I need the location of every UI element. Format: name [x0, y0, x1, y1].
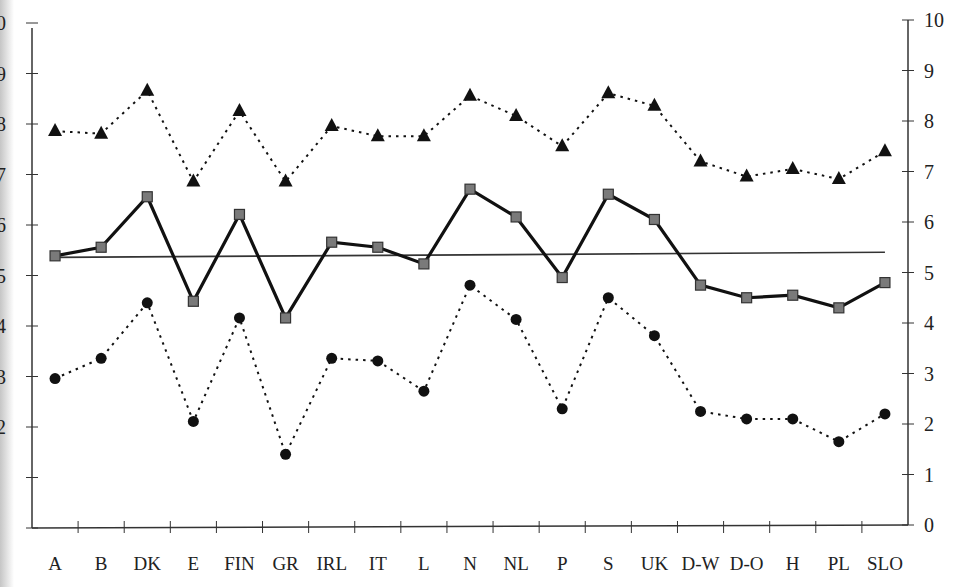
circle-marker — [649, 330, 660, 341]
square-marker — [373, 242, 383, 252]
square-marker — [142, 192, 152, 202]
square-marker — [834, 303, 844, 313]
x-category-label: DK — [134, 553, 162, 574]
circle-marker — [418, 386, 429, 397]
circle-marker — [280, 449, 291, 460]
circle-marker — [188, 416, 199, 427]
left-y-tick-label: 5 — [0, 265, 6, 287]
circle-marker — [50, 373, 61, 384]
triangle-marker — [94, 126, 108, 139]
triangle-marker — [463, 88, 477, 101]
square-marker — [742, 293, 752, 303]
line-chart: 012345678910098765432ABDKEFINGRIRLITLNNL… — [0, 0, 954, 587]
triangle-marker — [832, 171, 846, 184]
x-category-label: IT — [369, 553, 387, 574]
x-category-label: A — [48, 553, 62, 574]
circle-marker — [787, 413, 798, 424]
circle-marker — [879, 408, 890, 419]
left-y-tick-label: 7 — [0, 164, 6, 186]
circle-marker — [557, 403, 568, 414]
series-circle — [50, 280, 891, 460]
square-marker — [281, 313, 291, 323]
left-y-tick-label: 4 — [0, 315, 6, 337]
x-category-label: H — [786, 553, 800, 574]
square-marker — [603, 189, 613, 199]
square-marker — [96, 242, 106, 252]
x-category-label: NL — [503, 553, 528, 574]
square-marker — [557, 273, 567, 283]
left-y-tick-label: 6 — [0, 214, 6, 236]
square-marker — [419, 259, 429, 269]
triangle-marker — [601, 85, 615, 98]
triangle-marker — [325, 118, 339, 131]
square-marker — [465, 184, 475, 194]
triangle-marker — [786, 161, 800, 174]
right-y-tick-label: 5 — [924, 262, 934, 284]
square-marker — [788, 290, 798, 300]
left-y-tick-label: 3 — [0, 366, 6, 388]
left-y-tick-label: 2 — [0, 416, 6, 438]
right-y-tick-label: 4 — [924, 312, 934, 334]
x-category-label: E — [188, 553, 200, 574]
x-category-label: FIN — [224, 553, 255, 574]
x-category-label: D-W — [682, 553, 720, 574]
right-y-tick-label: 3 — [924, 363, 934, 385]
triangle-marker — [48, 123, 62, 136]
x-category-label: B — [95, 553, 108, 574]
right-y-tick-label: 1 — [924, 464, 934, 486]
left-y-tick-label: 9 — [0, 63, 6, 85]
circle-marker — [741, 413, 752, 424]
reference-line — [55, 252, 885, 257]
right-y-tick-label: 10 — [924, 9, 944, 31]
x-category-label: N — [463, 553, 477, 574]
square-marker — [511, 212, 521, 222]
x-category-label: PL — [828, 553, 850, 574]
x-category-label: UK — [641, 553, 669, 574]
right-y-tick-label: 6 — [924, 211, 934, 233]
x-category-label: IRL — [316, 553, 347, 574]
square-marker — [880, 278, 890, 288]
square-marker — [649, 214, 659, 224]
x-category-label: S — [603, 553, 614, 574]
right-y-tick-label: 2 — [924, 413, 934, 435]
left-y-tick-label: 8 — [0, 113, 6, 135]
right-y-tick-label: 8 — [924, 110, 934, 132]
x-category-label: SLO — [867, 553, 903, 574]
right-y-tick-label: 9 — [924, 60, 934, 82]
x-category-label: P — [557, 553, 568, 574]
series-triangle — [48, 83, 892, 187]
triangle-marker — [232, 103, 246, 116]
circle-marker — [372, 355, 383, 366]
x-category-label: GR — [272, 553, 299, 574]
circle-marker — [833, 436, 844, 447]
circle-marker — [603, 292, 614, 303]
square-marker — [50, 251, 60, 261]
left-y-tick-label: 0 — [0, 12, 6, 34]
triangle-marker — [555, 138, 569, 151]
triangle-marker — [417, 128, 431, 141]
circle-marker — [695, 406, 706, 417]
series-group — [48, 83, 892, 460]
circle-marker — [142, 297, 153, 308]
triangle-marker — [371, 128, 385, 141]
circle-marker — [96, 353, 107, 364]
right-y-tick-label: 7 — [924, 161, 934, 183]
x-category-label: L — [418, 553, 430, 574]
right-y-tick-label: 0 — [924, 514, 934, 536]
circle-marker — [511, 314, 522, 325]
triangle-marker — [509, 108, 523, 121]
square-marker — [696, 280, 706, 290]
x-category-label: D-O — [730, 553, 764, 574]
square-marker — [327, 237, 337, 247]
circle-marker — [234, 312, 245, 323]
circle-marker — [465, 280, 476, 291]
triangle-marker — [878, 143, 892, 156]
square-marker — [188, 296, 198, 306]
circle-marker — [326, 353, 337, 364]
triangle-marker — [140, 83, 154, 96]
triangle-marker — [279, 174, 293, 187]
square-marker — [234, 209, 244, 219]
